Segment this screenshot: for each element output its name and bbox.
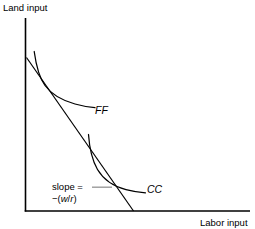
plot-area [0, 0, 255, 229]
slope-annotation-line1: slope = [52, 181, 83, 192]
ff-curve [34, 52, 95, 108]
x-axis-label: Labor input [200, 217, 248, 228]
slope-wage-symbol: w [61, 193, 68, 204]
cc-curve-label: CC [147, 183, 162, 195]
slope-minus-paren: −( [52, 193, 61, 204]
slope-close-paren: ) [73, 193, 76, 204]
cc-curve [89, 135, 146, 193]
y-axis-label: Land input [3, 2, 47, 13]
economics-isoquant-figure: Land input Labor input FF CC slope = −(w… [0, 0, 255, 229]
slope-annotation: slope = −(w/r) [52, 181, 83, 204]
ff-curve-label: FF [95, 104, 108, 116]
slope-annotation-line2: −(w/r) [52, 193, 83, 205]
